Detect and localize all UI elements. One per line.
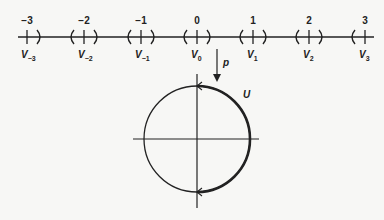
tick-value-label: 3 bbox=[362, 15, 368, 26]
tick-value-label: −1 bbox=[135, 15, 147, 26]
tick-5: 2V2 bbox=[296, 15, 322, 62]
unit-circle: U bbox=[133, 74, 259, 208]
tick-value-label: 2 bbox=[306, 15, 312, 26]
tick-4: 1V1 bbox=[240, 15, 266, 62]
interval-set-label: V0 bbox=[191, 49, 202, 62]
interval-set-label: V3 bbox=[359, 49, 370, 62]
tick-2: −1V−1 bbox=[128, 15, 154, 62]
interval-set-label: V−2 bbox=[78, 49, 93, 62]
interval-set-label: V−1 bbox=[135, 49, 150, 62]
tick-1: −2V−2 bbox=[71, 15, 97, 62]
tick-0: −3V−3 bbox=[21, 15, 40, 62]
tick-group: −3V−3−2V−2−1V−10V01V12V23V3 bbox=[21, 15, 370, 62]
projection-arrow: p bbox=[213, 49, 229, 82]
tick-3: 0V0 bbox=[184, 15, 210, 62]
arrowhead-icon bbox=[213, 74, 221, 82]
tick-6: 3V3 bbox=[352, 15, 370, 62]
interval-set-label: V−3 bbox=[21, 49, 36, 62]
interval-set-label: V2 bbox=[303, 49, 314, 62]
tick-value-label: 0 bbox=[194, 15, 200, 26]
interval-set-label: V1 bbox=[247, 49, 258, 62]
arc-label-U: U bbox=[243, 89, 251, 100]
arrow-label-p: p bbox=[222, 57, 229, 68]
covering-map-diagram: −3V−3−2V−2−1V−10V01V12V23V3 p U bbox=[0, 0, 384, 220]
tick-value-label: 1 bbox=[250, 15, 256, 26]
tick-value-label: −2 bbox=[78, 15, 90, 26]
tick-value-label: −3 bbox=[21, 15, 33, 26]
